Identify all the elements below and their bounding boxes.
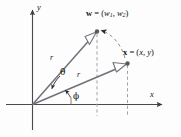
x-vector-label-close: ) — [151, 47, 154, 57]
x-axis-label: x — [150, 90, 154, 99]
w-vector-label: w = (w1, w2) — [86, 9, 128, 18]
axes-group — [6, 10, 162, 130]
y-axis-label: y — [37, 3, 41, 12]
phi-angle-label: ϕ — [73, 92, 79, 101]
x-tip-point — [125, 61, 129, 65]
x-vector-magnitude-label: r — [77, 71, 80, 79]
vector-arrowheads — [85, 32, 127, 72]
x-vector-label-equals: = ( — [127, 47, 139, 57]
vector-rotation-figure: y x w = (w1, w2) x = (x, y) r r θ ϕ — [0, 0, 181, 137]
x-vector-label: x = (x, y) — [123, 48, 154, 57]
w-vector-magnitude-label: r — [50, 54, 53, 62]
w-vector-label-close: ) — [126, 8, 129, 18]
w-tip-point — [95, 29, 99, 33]
diagram-canvas — [0, 0, 181, 137]
rotation-arc — [102, 31, 126, 59]
w-vector-label-equals: = ( — [92, 8, 104, 18]
phi-indicator — [66, 91, 71, 98]
x-vector-arrowhead — [113, 63, 127, 73]
theta-angle-label: θ — [60, 68, 65, 77]
